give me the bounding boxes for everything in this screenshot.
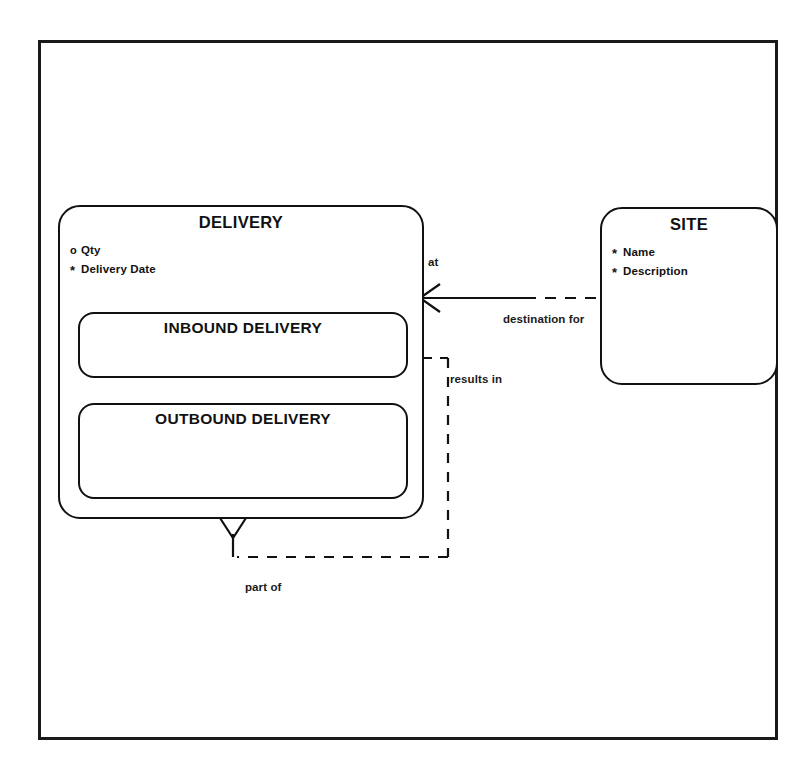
entity-delivery-title: DELIVERY [60,213,422,232]
entity-site-attributes: * Name * Description [612,243,776,281]
entity-outbound-delivery[interactable]: OUTBOUND DELIVERY [78,403,408,499]
entity-delivery-attributes: o Qty * Delivery Date [70,241,422,279]
mandatory-attribute-marker-icon: * [612,269,623,277]
entity-delivery[interactable]: DELIVERY o Qty * Delivery Date INBOUND D… [58,205,424,519]
optional-attribute-marker-icon: o [70,241,81,259]
entity-inbound-delivery-title: INBOUND DELIVERY [80,319,406,337]
attribute-label: Qty [81,241,101,260]
mandatory-attribute-marker-icon: * [70,267,81,275]
attribute-label: Name [623,243,655,262]
entity-site[interactable]: SITE * Name * Description [600,207,778,385]
attribute-row: o Qty [70,241,422,260]
attribute-row: * Name [612,243,776,262]
entity-outbound-delivery-title: OUTBOUND DELIVERY [80,410,406,428]
attribute-row: * Description [612,262,776,281]
diagram-canvas: DELIVERY o Qty * Delivery Date INBOUND D… [0,0,812,773]
relationship-label-destination-for: destination for [503,313,584,325]
attribute-label: Description [623,262,688,281]
attribute-label: Delivery Date [81,260,156,279]
mandatory-attribute-marker-icon: * [612,250,623,258]
relationship-label-at: at [428,256,438,268]
entity-site-title: SITE [602,215,776,234]
relationship-label-part-of: part of [245,581,281,593]
relationship-label-results-in: results in [450,373,502,385]
entity-inbound-delivery[interactable]: INBOUND DELIVERY [78,312,408,378]
attribute-row: * Delivery Date [70,260,422,279]
